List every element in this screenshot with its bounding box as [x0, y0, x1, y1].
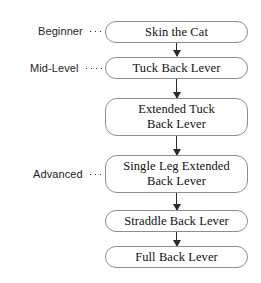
connector-single-leg-extended-back-lever-to-straddle-back-lever: [176, 193, 177, 210]
connector-straddle-back-lever-to-full-back-lever: [176, 232, 177, 246]
node-single-leg-extended-back-lever: Single Leg Extended Back Lever: [105, 155, 248, 193]
node-tuck-back-lever: Tuck Back Lever: [105, 57, 248, 79]
node-full-back-lever: Full Back Lever: [105, 246, 248, 268]
node-skin-the-cat: Skin the Cat: [105, 21, 248, 43]
level-label-mid-level: Mid-Level: [30, 60, 114, 76]
node-single-leg-extended-back-lever-label: Single Leg Extended Back Lever: [119, 159, 234, 189]
connector-extended-tuck-back-lever-to-single-leg-extended-back-lever: [176, 136, 177, 155]
node-extended-tuck-back-lever-label: Extended Tuck Back Lever: [134, 102, 219, 132]
dotted-line-mid-level: [84, 68, 106, 69]
node-tuck-back-lever-label: Tuck Back Lever: [129, 61, 225, 76]
connector-tuck-back-lever-to-extended-tuck-back-lever: [176, 79, 177, 98]
node-extended-tuck-back-lever: Extended Tuck Back Lever: [105, 98, 248, 136]
node-straddle-back-lever: Straddle Back Lever: [105, 210, 248, 232]
level-label-mid-level-text: Mid-Level: [30, 62, 79, 74]
level-label-advanced-text: Advanced: [33, 168, 83, 180]
node-full-back-lever-label: Full Back Lever: [131, 250, 222, 265]
connector-skin-the-cat-to-tuck-back-lever: [176, 43, 177, 56]
level-label-beginner-text: Beginner: [38, 25, 83, 37]
node-straddle-back-lever-label: Straddle Back Lever: [120, 214, 233, 229]
node-skin-the-cat-label: Skin the Cat: [141, 25, 212, 40]
back-lever-progression-diagram: Beginner Mid-Level Advanced Skin the Cat…: [0, 0, 261, 283]
